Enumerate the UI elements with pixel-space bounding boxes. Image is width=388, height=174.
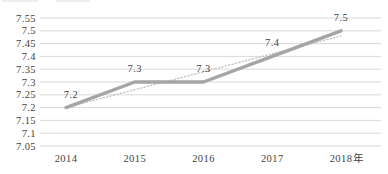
x-axis-tick-label: 2016 xyxy=(192,153,215,164)
x-axis-tick-label: 2018 xyxy=(330,153,353,164)
data-label: 7.3 xyxy=(196,63,210,74)
line-chart: 7.557.57.457.47.357.37.257.27.157.17.052… xyxy=(0,0,388,174)
y-axis-tick-label: 7.45 xyxy=(16,38,36,49)
y-axis-tick-label: 7.2 xyxy=(22,102,36,113)
y-axis-tick-label: 7.35 xyxy=(16,64,36,75)
y-axis-tick-label: 7.25 xyxy=(16,89,36,100)
y-axis-tick-label: 7.3 xyxy=(22,77,36,88)
y-axis-tick-label: 7.1 xyxy=(22,128,36,139)
y-axis-tick-label: 7.5 xyxy=(22,25,36,36)
data-label: 7.4 xyxy=(265,37,280,48)
y-axis-tick-label: 7.4 xyxy=(22,51,37,62)
chart-canvas: 7.557.57.457.47.357.37.257.27.157.17.052… xyxy=(0,0,388,174)
data-label: 7.2 xyxy=(64,89,78,100)
y-axis-tick-label: 7.05 xyxy=(16,141,36,152)
y-axis-tick-label: 7.15 xyxy=(16,115,36,126)
x-axis-tick-label: 2015 xyxy=(123,153,146,164)
y-axis-tick-label: 7.55 xyxy=(16,13,36,24)
x-axis-tick-label: 2014 xyxy=(55,153,78,164)
x-axis-unit-label: 年 xyxy=(353,152,363,164)
data-label: 7.5 xyxy=(334,12,348,23)
x-axis-tick-label: 2017 xyxy=(261,153,284,164)
data-label: 7.3 xyxy=(128,63,142,74)
